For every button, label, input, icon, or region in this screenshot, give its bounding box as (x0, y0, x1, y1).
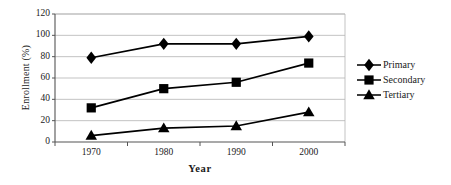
legend-square-icon (356, 73, 382, 87)
data-point-marker-diamond (86, 52, 96, 64)
data-point-marker-square (232, 78, 241, 87)
legend-diamond-icon (356, 58, 382, 72)
x-axis-title: Year (55, 163, 345, 174)
y-axis-tick-label: 80 (26, 52, 50, 62)
legend-item-secondary[interactable]: Secondary (356, 72, 451, 87)
y-axis-tick-label: 20 (26, 116, 50, 126)
x-axis-tick-label: 2000 (287, 146, 331, 158)
series-tertiary (86, 106, 315, 139)
series-line (91, 36, 309, 57)
enrollment-line-chart: Enrollment (%) 020406080100120 197019801… (0, 0, 451, 185)
data-point-marker-square (87, 103, 96, 112)
x-axis-tick-label: 1990 (214, 146, 258, 158)
data-point-marker-diamond (231, 38, 241, 50)
x-axis-tick-label: 1970 (69, 146, 113, 158)
data-point-marker-diamond (159, 38, 169, 50)
series-line (91, 112, 309, 135)
data-point-marker-triangle (303, 106, 315, 116)
data-point-marker-square (304, 58, 313, 67)
data-point-marker-square (159, 84, 168, 93)
y-axis-tick-label: 100 (26, 30, 50, 40)
legend-item-tertiary[interactable]: Tertiary (356, 87, 451, 102)
legend-item-label: Secondary (382, 74, 425, 85)
data-point-marker-diamond (364, 58, 374, 70)
legend-item-label: Tertiary (382, 89, 415, 100)
legend-item-label: Primary (382, 59, 415, 70)
data-point-marker-diamond (304, 30, 314, 42)
x-axis-tick-labels: 1970198019902000 (0, 146, 451, 162)
chart-legend: PrimarySecondaryTertiary (356, 57, 451, 102)
x-axis-tick-label: 1980 (142, 146, 186, 158)
data-point-marker-square (364, 75, 373, 84)
y-axis-tick-label: 40 (26, 94, 50, 104)
y-axis-tick-label: 120 (26, 9, 50, 19)
y-axis-tick-label: 60 (26, 73, 50, 83)
series-line (91, 63, 309, 108)
legend-item-primary[interactable]: Primary (356, 57, 451, 72)
series-secondary (87, 58, 314, 112)
legend-triangle-icon (356, 88, 382, 102)
